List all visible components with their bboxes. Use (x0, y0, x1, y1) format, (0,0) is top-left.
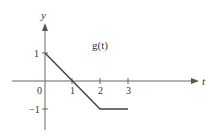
x-tick-label-2: 2 (98, 85, 103, 96)
y-axis-arrow-icon (42, 23, 48, 31)
y-axis-label: y (40, 9, 46, 21)
function-label: g(t) (92, 39, 108, 52)
x-tick-label-1: 1 (70, 85, 75, 96)
y-tick-label-pos: 1 (34, 48, 39, 59)
x-axis-label: t (202, 75, 206, 87)
origin-label: 0 (37, 85, 42, 96)
x-axis-arrow-icon (191, 78, 199, 84)
function-plot: y t g(t) 0 1 2 3 1 −1 (0, 0, 213, 136)
y-tick-label-neg: −1 (29, 104, 40, 115)
x-tick-label-3: 3 (126, 85, 131, 96)
